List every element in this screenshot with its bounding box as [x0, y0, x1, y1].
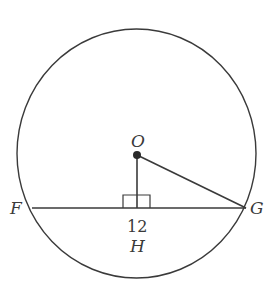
radius-og — [137, 155, 246, 208]
label-h: H — [129, 236, 146, 256]
label-f: F — [9, 198, 23, 218]
center-point-o — [133, 151, 141, 159]
label-g: G — [250, 198, 264, 218]
label-length-12: 12 — [127, 217, 147, 236]
geometry-diagram: O F G 12 H — [0, 0, 279, 288]
label-o: O — [131, 131, 145, 151]
